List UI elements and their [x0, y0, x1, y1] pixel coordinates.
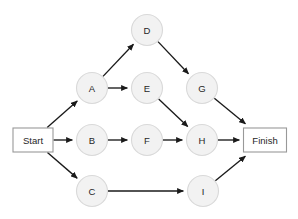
- node-D[interactable]: D: [132, 15, 163, 46]
- node-finish[interactable]: Finish: [244, 128, 287, 152]
- node-start[interactable]: Start: [13, 128, 53, 152]
- node-label-C: C: [89, 186, 96, 197]
- node-label-D: D: [144, 25, 151, 36]
- node-B[interactable]: B: [77, 125, 108, 156]
- flowchart-canvas: StartABCDEFGHIFinish: [0, 0, 298, 219]
- edge-G-to-finish: [214, 98, 245, 124]
- node-I[interactable]: I: [188, 176, 219, 207]
- node-label-B: B: [89, 135, 95, 146]
- node-label-H: H: [199, 135, 206, 146]
- edge-D-to-G: [158, 42, 188, 74]
- node-label-A: A: [89, 83, 96, 94]
- edges-layer: [47, 42, 245, 191]
- node-C[interactable]: C: [77, 176, 108, 207]
- edge-start-to-C: [47, 153, 77, 179]
- edge-A-to-D: [103, 44, 133, 76]
- edge-start-to-A: [47, 101, 77, 127]
- node-label-start: Start: [23, 135, 43, 146]
- node-label-F: F: [144, 135, 150, 146]
- node-label-G: G: [198, 83, 205, 94]
- node-G[interactable]: G: [187, 73, 218, 104]
- edge-E-to-H: [159, 99, 188, 126]
- node-label-E: E: [144, 83, 150, 94]
- node-F[interactable]: F: [132, 125, 163, 156]
- node-label-I: I: [202, 186, 205, 197]
- node-H[interactable]: H: [187, 125, 218, 156]
- node-label-finish: Finish: [252, 135, 277, 146]
- nodes-layer: StartABCDEFGHIFinish: [13, 15, 287, 207]
- edge-I-to-finish: [215, 156, 245, 181]
- node-E[interactable]: E: [132, 73, 163, 104]
- node-A[interactable]: A: [77, 73, 108, 104]
- network-diagram: StartABCDEFGHIFinish: [0, 0, 298, 219]
